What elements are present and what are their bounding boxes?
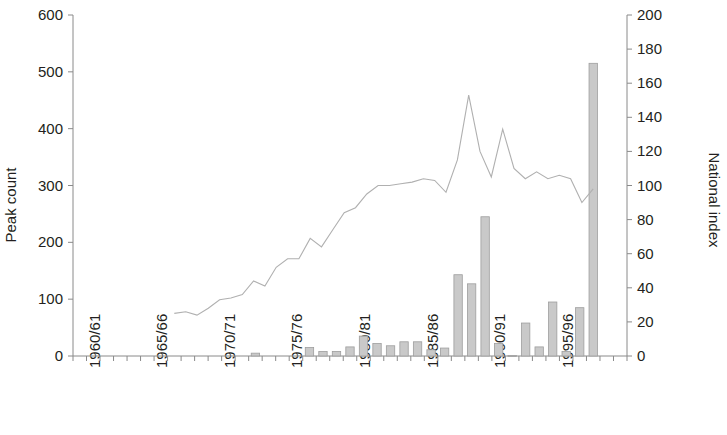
bar-1986-87 — [427, 350, 435, 356]
chart-container: Peak count National index 01002003004005… — [0, 0, 727, 435]
bar-1984-85 — [400, 342, 408, 356]
national-index-line — [174, 95, 593, 315]
bar-1995-96 — [548, 302, 556, 356]
bar-1981-82 — [359, 336, 367, 356]
bar-1997-98 — [576, 308, 584, 356]
bar-1973-74 — [251, 353, 259, 356]
plot-area — [0, 0, 727, 435]
bar-1990-91 — [481, 217, 489, 356]
bar-1989-90 — [467, 284, 475, 356]
bar-1982-83 — [373, 343, 381, 356]
line-series — [174, 95, 593, 315]
bar-1992-93 — [508, 355, 516, 356]
bar-1988-89 — [454, 275, 462, 356]
bar-1985-86 — [413, 342, 421, 356]
bar-1991-92 — [494, 343, 502, 356]
bar-1996-97 — [562, 351, 570, 356]
bar-1979-80 — [332, 351, 340, 356]
bar-1998-99 — [589, 63, 597, 356]
bar-1987-88 — [440, 348, 448, 356]
bar-1983-84 — [386, 346, 394, 356]
bar-1993-94 — [521, 323, 529, 356]
bar-1977-78 — [305, 347, 313, 356]
bar-1994-95 — [535, 347, 543, 356]
bar-1978-79 — [319, 351, 327, 356]
axes — [68, 15, 632, 361]
bar-series — [251, 63, 597, 356]
bar-1980-81 — [346, 347, 354, 356]
